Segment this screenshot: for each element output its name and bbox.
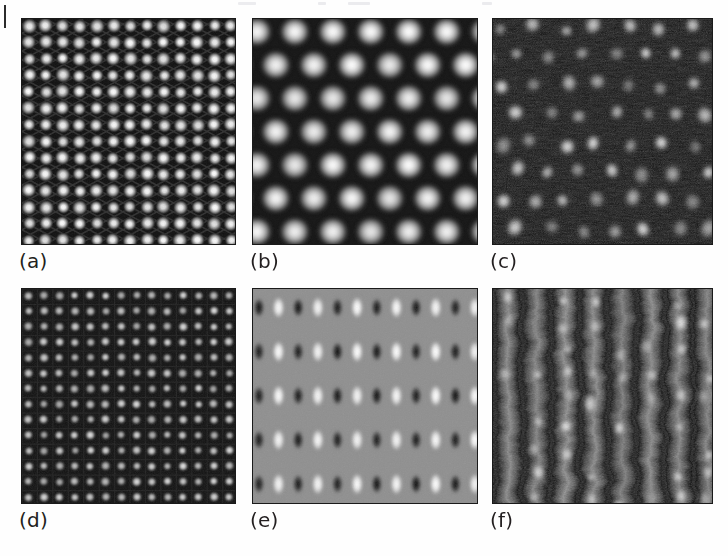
panel-b: [252, 18, 478, 245]
panel-d: [21, 288, 236, 504]
figure-panel-grid: (a): [0, 0, 728, 556]
panel-a-frame: [21, 18, 236, 245]
panel-a: [21, 18, 236, 245]
panel-e: [252, 288, 478, 504]
panel-c: [492, 18, 713, 245]
panel-f-frame: [492, 288, 713, 504]
panel-e-frame: [252, 288, 478, 504]
panel-f: [492, 288, 713, 504]
panel-d-caption: (d): [19, 508, 48, 532]
panel-b-image: [253, 19, 477, 244]
panel-c-caption: (c): [490, 249, 517, 273]
panel-f-caption: (f): [490, 508, 513, 532]
panel-e-caption: (e): [250, 508, 279, 532]
panel-d-image: [22, 289, 235, 503]
panel-b-caption: (b): [250, 249, 279, 273]
panel-b-frame: [252, 18, 478, 245]
panel-a-caption: (a): [19, 249, 47, 273]
panel-a-image: [22, 19, 235, 244]
panel-d-frame: [21, 288, 236, 504]
panel-c-image: [493, 19, 712, 244]
panel-c-frame: [492, 18, 713, 245]
panel-e-image: [253, 289, 477, 503]
panel-f-image: [493, 289, 712, 503]
